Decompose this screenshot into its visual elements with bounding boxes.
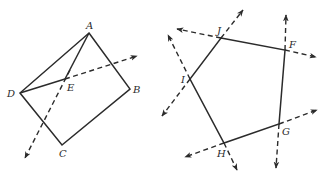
dashed-ray-arrow-icon bbox=[177, 29, 221, 38]
polygon-outline bbox=[190, 38, 285, 143]
vertex-label-F: F bbox=[288, 39, 297, 50]
vertex-label-H: H bbox=[216, 148, 226, 159]
vertex-label-A: A bbox=[85, 20, 93, 31]
vertex-label-J: J bbox=[215, 25, 222, 36]
dashed-ray-arrow-icon bbox=[221, 10, 243, 38]
dashed-ray-arrow-icon bbox=[285, 15, 286, 50]
solid-segment bbox=[20, 79, 65, 93]
dashed-ray-arrow-icon bbox=[224, 143, 237, 170]
geometry-diagram: ABCDEJFGHI bbox=[0, 0, 326, 179]
vertex-label-B: B bbox=[132, 84, 140, 95]
pentagon-FGHIJ: JFGHI bbox=[162, 10, 317, 170]
dashed-ray-arrow-icon bbox=[168, 35, 190, 79]
polygon-outline bbox=[20, 33, 130, 145]
vertex-label-G: G bbox=[282, 126, 290, 137]
vertex-label-C: C bbox=[59, 148, 67, 159]
quadrilateral-ABCD: ABCDE bbox=[6, 20, 140, 159]
dashed-ray-arrow-icon bbox=[162, 79, 190, 116]
vertex-label-D: D bbox=[6, 88, 15, 99]
vertex-label-I: I bbox=[180, 74, 186, 85]
dashed-ray-arrow-icon bbox=[285, 50, 316, 57]
dashed-ray-arrow-icon bbox=[279, 110, 317, 124]
vertex-label-E: E bbox=[66, 82, 75, 93]
dashed-ray-arrow-icon bbox=[276, 124, 279, 168]
